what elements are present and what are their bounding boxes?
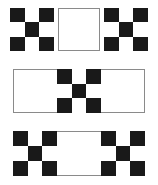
checker-cell-light (72, 69, 87, 84)
checker-cell-light (133, 22, 148, 36)
checker-cell-dark (116, 146, 131, 161)
checker-cell-light (116, 131, 131, 146)
checker-cell-light (42, 146, 57, 161)
checker-cell-dark (39, 37, 54, 51)
checker-cell-light (39, 22, 54, 36)
row1-left-checker-tile (10, 8, 54, 51)
checker-cell-dark (86, 98, 101, 113)
checker-cell-dark (42, 161, 57, 176)
checkerboard-3x3 (10, 8, 54, 51)
checker-cell-dark (10, 8, 25, 22)
checker-cell-light (25, 37, 40, 51)
row3-left-checker-tile (13, 131, 57, 176)
checker-cell-light (25, 8, 40, 22)
checker-cell-dark (10, 37, 25, 51)
checker-cell-dark (28, 146, 43, 161)
checkerboard-3x3 (104, 8, 148, 51)
checker-cell-dark (101, 161, 116, 176)
checker-cell-light (72, 98, 87, 113)
checker-cell-dark (130, 161, 145, 176)
checker-cell-light (119, 8, 134, 22)
checker-cell-light (86, 84, 101, 99)
row2-center-checker-tile (57, 69, 101, 113)
checker-cell-light (13, 146, 28, 161)
checker-cell-dark (72, 84, 87, 99)
row1-center-white-tile (58, 8, 100, 51)
checker-cell-dark (39, 8, 54, 22)
checker-cell-dark (57, 98, 72, 113)
row1-right-checker-tile (104, 8, 148, 51)
checker-cell-dark (57, 69, 72, 84)
checker-cell-dark (119, 22, 134, 36)
checker-cell-dark (101, 131, 116, 146)
checkerboard-3x3 (101, 131, 145, 176)
tile-pattern-figure (0, 0, 158, 185)
checkerboard-3x3 (57, 69, 101, 113)
checkerboard-3x3 (13, 131, 57, 176)
checker-cell-dark (86, 69, 101, 84)
checker-cell-light (28, 131, 43, 146)
checker-cell-dark (130, 131, 145, 146)
row3-right-checker-tile (101, 131, 145, 176)
checker-cell-dark (133, 37, 148, 51)
checker-cell-dark (104, 37, 119, 51)
checker-cell-dark (13, 161, 28, 176)
checker-cell-dark (42, 131, 57, 146)
checker-cell-dark (13, 131, 28, 146)
checker-cell-dark (133, 8, 148, 22)
checker-cell-dark (25, 22, 40, 36)
checker-cell-light (101, 146, 116, 161)
checker-cell-light (130, 146, 145, 161)
checker-cell-light (10, 22, 25, 36)
checker-cell-light (104, 22, 119, 36)
white-panel (59, 9, 99, 50)
checker-cell-light (119, 37, 134, 51)
checker-cell-light (57, 84, 72, 99)
checker-cell-light (116, 161, 131, 176)
checker-cell-light (28, 161, 43, 176)
checker-cell-dark (104, 8, 119, 22)
